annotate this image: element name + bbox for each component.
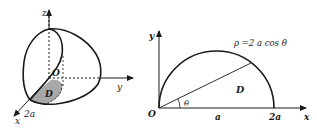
- region-d-label: D: [235, 84, 245, 95]
- tick-label-a: a: [215, 112, 221, 122]
- left-3d-figure: z y x O D 2a: [14, 8, 133, 126]
- origin-label: O: [148, 109, 156, 119]
- diagram-canvas: z y x O D 2a y x O ρ =2 a cos θ D θ a 2a: [0, 0, 317, 134]
- angle-label: θ: [184, 99, 189, 108]
- y-axis-label: y: [116, 82, 123, 92]
- curve-equation: ρ =2 a cos θ: [233, 38, 287, 48]
- angle-arc: [178, 99, 180, 108]
- right-polar-figure: y x O ρ =2 a cos θ D θ a 2a: [148, 31, 310, 122]
- x-axis-label: x: [15, 116, 20, 126]
- tick-label-2a: 2a: [268, 112, 281, 122]
- z-axis-label: z: [41, 8, 47, 18]
- region-d-label: D: [44, 89, 53, 99]
- x-axis-label: x: [303, 112, 310, 122]
- origin-label: O: [52, 68, 60, 78]
- radius-label: 2a: [23, 109, 35, 119]
- y-axis-label: y: [148, 31, 155, 41]
